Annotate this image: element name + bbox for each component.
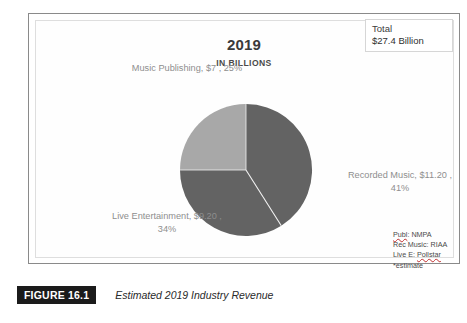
total-label: Total — [372, 23, 448, 35]
figure-frame: Total $27.4 Billion 2019 IN BILLIONS Mus… — [28, 13, 460, 264]
figure-caption-text: Estimated 2019 Industry Revenue — [115, 289, 273, 301]
source-note-live: Live E: Pollstar — [393, 250, 447, 260]
figure-number-tag: FIGURE 16.1 — [17, 286, 96, 304]
pie-slice-music-publishing — [180, 104, 246, 170]
chart-title: 2019 — [29, 36, 459, 53]
source-note-recorded: Rec Music: RIAA — [393, 240, 447, 250]
source-pollstar-text: Pollstar — [417, 250, 441, 259]
figure-caption-row: FIGURE 16.1 Estimated 2019 Industry Reve… — [17, 286, 273, 304]
source-notes: Publ: NMPA Rec Music: RIAA Live E: Polls… — [393, 230, 447, 271]
slice-label-music-publishing: Music Publishing, $7 , 25% — [129, 62, 245, 75]
slice-label-live-entertainment: Live Entertainment, $9.20 , 34% — [107, 210, 227, 236]
source-publ-text: Publ — [393, 230, 407, 239]
source-note-estimate: *estimate — [393, 261, 447, 271]
slice-label-recorded-music: Recorded Music, $11.20 , 41% — [341, 169, 459, 195]
source-note-publishing: Publ: NMPA — [393, 230, 447, 240]
